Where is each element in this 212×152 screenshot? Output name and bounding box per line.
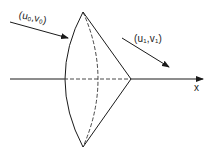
label-v: ,v	[147, 33, 155, 44]
label-u: (u	[134, 33, 143, 44]
outgoing-flow-label: (u1,v1)	[134, 34, 162, 44]
x-axis-label: x	[194, 83, 199, 93]
label-close: )	[159, 33, 163, 44]
diagram-canvas: (u0,v0) (u1,v1) x	[0, 0, 212, 152]
rear-surface-dashed-arc	[83, 12, 98, 147]
front-surface-arc	[65, 12, 83, 147]
